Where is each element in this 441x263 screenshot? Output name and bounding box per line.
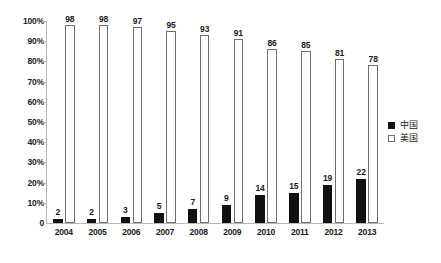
bar-value-label: 7 <box>190 198 195 207</box>
y-axis-tick <box>42 21 46 22</box>
bar-value-label: 15 <box>289 182 298 191</box>
bar-usa-2013 <box>368 65 378 223</box>
bar-usa-2004 <box>65 25 75 223</box>
bar-value-label: 2 <box>89 208 94 217</box>
bar-usa-2010 <box>267 49 277 223</box>
y-axis-tick <box>42 82 46 83</box>
legend-label-usa: 美国 <box>400 134 418 143</box>
y-axis-tick <box>42 122 46 123</box>
x-axis-labels: 2004200520062007200820092010201120122013 <box>47 228 384 244</box>
bar-value-label: 81 <box>335 49 344 58</box>
legend-label-china: 中国 <box>400 121 418 130</box>
x-axis-line <box>46 223 384 224</box>
bar-china-2007 <box>154 213 164 223</box>
y-axis-tick <box>42 61 46 62</box>
bar-china-2013 <box>356 179 366 223</box>
bar-value-label: 22 <box>357 168 366 177</box>
legend-item-china[interactable]: 中国 <box>388 121 418 130</box>
y-axis-tick <box>42 142 46 143</box>
plot-area: 2982983975957939911486158519812278 <box>47 21 384 223</box>
bar-value-label: 86 <box>268 39 277 48</box>
bar-usa-2011 <box>301 51 311 223</box>
bar-value-label: 2 <box>56 208 61 217</box>
filled-square-icon <box>388 122 395 129</box>
bar-value-label: 93 <box>200 25 209 34</box>
bar-china-2011 <box>289 193 299 223</box>
bar-china-2004 <box>53 219 63 223</box>
bar-china-2006 <box>121 217 131 223</box>
x-tick-label: 2009 <box>223 228 241 237</box>
y-axis-tick <box>42 41 46 42</box>
legend-item-usa[interactable]: 美国 <box>388 134 418 143</box>
bar-value-label: 98 <box>65 15 74 24</box>
bar-value-label: 98 <box>99 15 108 24</box>
bar-value-label: 9 <box>224 194 229 203</box>
bar-value-label: 97 <box>133 17 142 26</box>
bar-usa-2007 <box>166 31 176 223</box>
x-tick-label: 2008 <box>190 228 208 237</box>
empty-square-icon <box>388 135 395 142</box>
bar-china-2005 <box>87 219 97 223</box>
bar-usa-2006 <box>133 27 143 223</box>
x-tick-label: 2013 <box>358 228 376 237</box>
x-tick-label: 2010 <box>257 228 275 237</box>
bar-value-label: 19 <box>323 174 332 183</box>
bar-value-label: 5 <box>157 202 162 211</box>
y-axis-labels: 100%90%80%70%60%50%40%30%20%10%0 <box>8 14 44 230</box>
y-axis-tick <box>42 102 46 103</box>
bar-value-label: 91 <box>234 29 243 38</box>
bar-usa-2009 <box>234 39 244 223</box>
bar-value-label: 14 <box>256 184 265 193</box>
x-tick-label: 2006 <box>122 228 140 237</box>
bar-china-2010 <box>255 195 265 223</box>
bar-china-2008 <box>188 209 198 223</box>
chart-legend: 中国 美国 <box>388 121 418 143</box>
bar-value-label: 85 <box>301 41 310 50</box>
y-tick-label: 0 <box>39 219 44 228</box>
y-tick-label: 100% <box>23 17 44 26</box>
bar-usa-2008 <box>200 35 210 223</box>
bar-usa-2012 <box>335 59 345 223</box>
x-tick-label: 2011 <box>291 228 309 237</box>
bar-value-label: 95 <box>166 21 175 30</box>
x-tick-label: 2007 <box>156 228 174 237</box>
bar-china-2012 <box>323 185 333 223</box>
y-axis-tick <box>42 162 46 163</box>
bar-china-2009 <box>222 205 232 223</box>
x-tick-label: 2005 <box>88 228 106 237</box>
bar-value-label: 3 <box>123 206 128 215</box>
bar-chart: 100%90%80%70%60%50%40%30%20%10%0 2982983… <box>0 0 441 263</box>
y-axis-tick <box>42 203 46 204</box>
x-tick-label: 2012 <box>324 228 342 237</box>
bar-usa-2005 <box>99 25 109 223</box>
y-axis-tick <box>42 183 46 184</box>
bar-value-label: 78 <box>369 55 378 64</box>
x-tick-label: 2004 <box>55 228 73 237</box>
